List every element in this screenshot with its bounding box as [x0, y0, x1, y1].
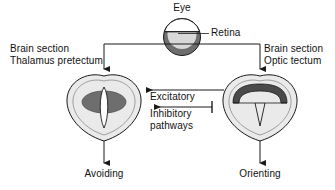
diagram-canvas: Eye Retina Brain section Thalamus pretec… — [0, 0, 335, 190]
eye-label: Eye — [160, 2, 204, 14]
inhibitory-pathway-label-line1: Inhibitory — [150, 108, 192, 120]
left-brain-label-line1: Brain section — [10, 43, 69, 55]
retina-label: Retina — [211, 27, 241, 39]
eye-graphic — [164, 19, 210, 56]
excitatory-pathway-label: Excitatory — [150, 91, 195, 103]
avoiding-outcome-label: Avoiding — [64, 168, 144, 180]
left-brain-section-graphic — [67, 75, 141, 141]
right-brain-label-line1: Brain section — [264, 43, 323, 55]
left-brain-ventricle — [100, 87, 108, 128]
right-brain-section-graphic — [223, 75, 297, 141]
eye-cornea — [164, 19, 199, 32]
right-brain-label-line2: Optic tectum — [264, 55, 321, 67]
output-arrows — [104, 141, 260, 163]
orienting-outcome-label: Orienting — [220, 168, 300, 180]
inhibitory-pathway-label-line2: pathways — [150, 120, 193, 132]
left-brain-label-line2: Thalamus pretectum — [10, 55, 103, 67]
